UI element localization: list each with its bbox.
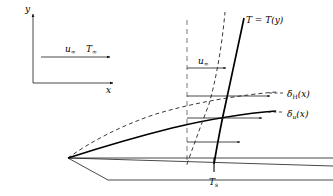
thermal-layer-label: δH(x) [287,89,310,100]
freestream-temperature-label: T∞ [86,44,97,55]
plate-mid-line [68,158,333,166]
velocity-profile-curve [187,12,225,164]
x-axis-label: x [106,85,111,95]
plate-lower-surface [68,158,333,180]
surface-temperature-label: Ts [209,177,218,188]
thermal-layer-annotation: δH(x) [269,89,310,100]
y-axis-label: y [24,4,31,14]
profile-velocity-label: u∞ [198,56,209,67]
diagram-canvas: y x u∞ T∞ u∞ [0,0,333,196]
flat-plate-body [68,158,333,180]
velocity-layer-label: δu(x) [287,109,309,120]
freestream-velocity-label: u∞ [65,44,76,55]
freestream-arrow-group: u∞ T∞ [41,44,110,57]
temperature-profile-label: T = T(y) [246,15,284,25]
boundary-layer-figure: y x u∞ T∞ u∞ [0,0,333,196]
